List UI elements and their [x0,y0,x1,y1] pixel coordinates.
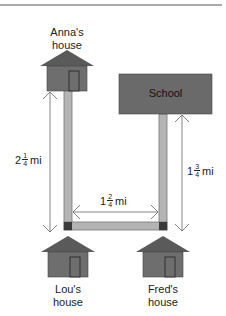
distance-fraction: 2 4 [107,193,113,208]
distance-unit: mi [202,165,214,177]
distance-unit: mi [115,195,127,207]
distance-fraction: 1 4 [22,152,28,167]
lou-label-line2: house [43,296,93,309]
distance-whole: 1 [187,165,193,177]
distance-fraction: 3 4 [194,163,200,178]
intersection-fred [159,222,167,230]
lou-house-icon [41,236,95,277]
lou-label-line1: Lou's [43,283,93,296]
anna-label-line2: house [42,39,92,52]
road-school-fred [159,114,167,230]
fred-house-icon [136,236,190,277]
anna-house-icon [40,50,94,91]
distance-whole: 1 [100,195,106,207]
intersection-lou [64,222,72,230]
fred-label-line1: Fred's [138,283,188,296]
distance-lou-fred: 1 2 4 mi [100,193,127,208]
fraction-numerator: 1 [22,152,28,160]
fraction-numerator: 3 [194,163,200,171]
distance-fred-school: 1 3 4 mi [187,163,214,178]
road-anna-lou [64,90,72,230]
arrow-anna-lou-icon [43,92,57,232]
fred-house-label: Fred's house [138,283,188,309]
fraction-denominator: 4 [195,171,199,178]
distance-unit: mi [30,154,42,166]
fraction-denominator: 4 [108,201,112,208]
anna-label-line1: Anna's [42,26,92,39]
lou-house-label: Lou's house [43,283,93,309]
anna-house-label: Anna's house [42,26,92,52]
distance-anna-lou: 2 1 4 mi [15,152,42,167]
school-label: School [119,87,212,99]
fraction-numerator: 2 [107,193,113,201]
fraction-denominator: 4 [23,160,27,167]
fred-label-line2: house [138,296,188,309]
distance-whole: 2 [15,154,21,166]
road-lou-fred [64,222,167,230]
